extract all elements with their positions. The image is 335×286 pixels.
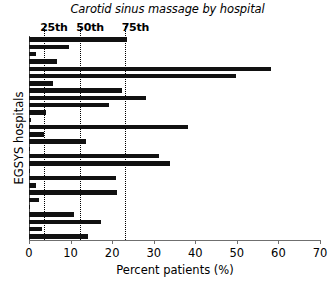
bar [29, 52, 36, 57]
bar-row [29, 88, 320, 93]
bar [29, 88, 122, 93]
x-tick-label: 0 [25, 246, 32, 260]
bar-row [29, 103, 320, 108]
bar [29, 176, 116, 181]
bar [29, 183, 36, 188]
bar [29, 205, 30, 210]
x-tick-mark [278, 240, 279, 244]
y-axis-label: EGSYS hospitals [12, 63, 26, 213]
x-tick-mark [237, 240, 238, 244]
bar [29, 169, 30, 174]
bar [29, 110, 46, 115]
bar-row [29, 147, 320, 152]
bar-row [29, 59, 320, 64]
bar [29, 139, 86, 144]
bar-row [29, 45, 320, 50]
bar-row [29, 154, 320, 159]
chart-figure: Carotid sinus massage by hospital 25th50… [0, 0, 335, 286]
bar-row [29, 132, 320, 137]
bar [29, 220, 101, 225]
bar-row [29, 198, 320, 203]
x-tick-label: 50 [230, 246, 245, 260]
bar [29, 125, 188, 130]
x-tick-mark [29, 240, 30, 244]
x-tick-mark [112, 240, 113, 244]
bar [29, 37, 127, 42]
x-tick-label: 60 [271, 246, 286, 260]
bar-row [29, 81, 320, 86]
bar [29, 118, 31, 123]
bar [29, 81, 53, 86]
bar [29, 190, 117, 195]
x-tick-label: 10 [63, 246, 78, 260]
bar [29, 212, 74, 217]
bar-row [29, 37, 320, 42]
bar-row [29, 227, 320, 232]
bar-row [29, 176, 320, 181]
bar-row [29, 125, 320, 130]
bar [29, 67, 271, 72]
bar-row [29, 183, 320, 188]
x-axis-label: Percent patients (%) [29, 263, 321, 277]
chart-title: Carotid sinus massage by hospital [0, 2, 335, 16]
bar-row [29, 110, 320, 115]
bar-row [29, 139, 320, 144]
x-tick-label: 70 [313, 246, 328, 260]
bar [29, 74, 236, 79]
bar [29, 198, 39, 203]
bar-row [29, 190, 320, 195]
bar [29, 45, 69, 50]
x-tick-label: 20 [105, 246, 120, 260]
bar-row [29, 118, 320, 123]
x-tick-mark [195, 240, 196, 244]
x-tick-label: 40 [188, 246, 203, 260]
bar-row [29, 205, 320, 210]
bar-row [29, 212, 320, 217]
x-tick-mark [320, 240, 321, 244]
bar [29, 103, 109, 108]
bar-row [29, 161, 320, 166]
bar [29, 234, 88, 239]
bar-row [29, 96, 320, 101]
bar-row [29, 234, 320, 239]
bar [29, 161, 170, 166]
bar [29, 59, 57, 64]
bar-row [29, 67, 320, 72]
x-axis-spine [29, 240, 321, 241]
x-tick-mark [71, 240, 72, 244]
x-tick-label: 30 [146, 246, 161, 260]
plot-area [29, 36, 320, 240]
bar [29, 147, 30, 152]
bar [29, 154, 159, 159]
bar [29, 132, 44, 137]
bar [29, 227, 42, 232]
bar [29, 96, 146, 101]
bar-row [29, 74, 320, 79]
bar-row [29, 220, 320, 225]
bar-row [29, 169, 320, 174]
x-tick-mark [154, 240, 155, 244]
bar-row [29, 52, 320, 57]
